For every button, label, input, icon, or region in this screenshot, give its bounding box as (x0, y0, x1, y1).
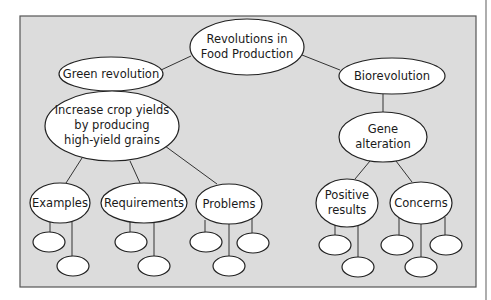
root-label-line2: Food Production (201, 47, 293, 61)
concept-map: Revolutions in Food Production Green rev… (0, 0, 491, 300)
gene-alteration-line1: Gene (368, 122, 398, 136)
empty-leaf (342, 257, 374, 277)
empty-leaf (381, 235, 413, 255)
examples-node: Examples (30, 183, 90, 223)
root-label-line1: Revolutions in (206, 32, 287, 46)
gene-alteration-node: Gene alteration (339, 112, 427, 162)
empty-leaf (138, 256, 170, 276)
green-revolution-label: Green revolution (63, 67, 159, 81)
positive-results-line2: results (328, 203, 367, 217)
biorevolution-label: Biorevolution (354, 69, 430, 83)
examples-label: Examples (32, 196, 88, 210)
empty-leaf (33, 232, 65, 252)
concerns-label: Concerns (394, 196, 448, 210)
positive-results-node: Positive results (316, 179, 378, 227)
increase-yields-node: Increase crop yields by producing high-y… (45, 91, 179, 161)
empty-leaf (190, 232, 222, 252)
green-revolution-node: Green revolution (59, 57, 163, 91)
empty-leaf (405, 257, 437, 277)
empty-leaf (213, 256, 245, 276)
empty-leaf (319, 235, 351, 255)
requirements-node: Requirements (101, 183, 187, 223)
concerns-node: Concerns (390, 182, 452, 224)
empty-leaf (237, 233, 269, 253)
requirements-label: Requirements (104, 196, 184, 210)
increase-yields-line2: by producing (74, 118, 149, 132)
empty-leaf (115, 232, 147, 252)
biorevolution-node: Biorevolution (339, 58, 445, 94)
increase-yields-line1: Increase crop yields (55, 103, 170, 117)
root-node: Revolutions in Food Production (190, 19, 304, 75)
empty-leaf (57, 256, 89, 276)
problems-node: Problems (196, 184, 262, 224)
increase-yields-line3: high-yield grains (64, 133, 160, 147)
problems-label: Problems (202, 197, 255, 211)
positive-results-line1: Positive (325, 188, 369, 202)
empty-leaf (430, 235, 462, 255)
gene-alteration-line2: alteration (355, 137, 411, 151)
